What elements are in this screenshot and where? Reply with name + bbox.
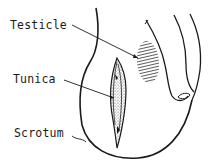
scrotum-leader <box>72 136 86 142</box>
testicle-shape <box>135 40 161 84</box>
scrotum-outline <box>80 8 192 158</box>
penis-outline-right <box>190 14 201 100</box>
testicle-label: Testicle <box>10 20 67 32</box>
penis-outline-mid <box>174 15 194 92</box>
testicle-leader <box>72 25 138 58</box>
penis-tip <box>178 93 190 98</box>
scrotum-label: Scrotum <box>14 128 64 140</box>
tunica-label: Tunica <box>13 74 56 86</box>
tunica-incision <box>110 58 126 148</box>
tunica-leader <box>64 80 114 98</box>
diagram-canvas: Testicle Tunica Scrotum <box>0 0 212 167</box>
